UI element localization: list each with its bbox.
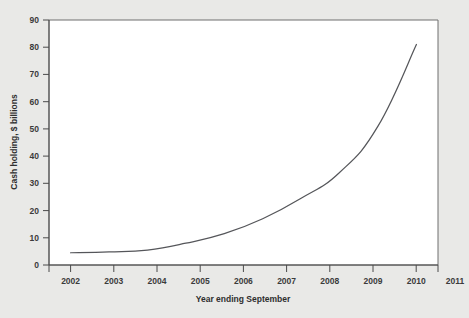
x-tick-label: 2007 — [277, 276, 296, 286]
y-tick-label: 50 — [30, 124, 40, 134]
x-tick-label: 2005 — [191, 276, 210, 286]
y-axis-title: Cash holding, $ billions — [9, 94, 19, 190]
plot-area-background — [49, 20, 438, 265]
chart-figure: 0 10 20 30 40 50 60 70 80 90 Cash holdin… — [0, 0, 469, 318]
y-tick-label: 80 — [30, 42, 40, 52]
y-tick-label: 70 — [30, 69, 40, 79]
y-tick-label: 60 — [30, 97, 40, 107]
x-tick-label: 2004 — [148, 276, 167, 286]
x-tick-label: 2008 — [320, 276, 339, 286]
x-tick-label: 2003 — [104, 276, 123, 286]
x-tick-label: 2010 — [407, 276, 426, 286]
y-tick-label: 30 — [30, 178, 40, 188]
x-tick-label: 2011 — [446, 276, 465, 286]
x-tick-label: 2002 — [61, 276, 80, 286]
x-axis-title: Year ending September — [196, 294, 291, 304]
x-tick-label: 2006 — [234, 276, 253, 286]
y-tick-label: 10 — [30, 233, 40, 243]
line-chart: 0 10 20 30 40 50 60 70 80 90 Cash holdin… — [0, 0, 469, 318]
y-tick-label: 20 — [30, 206, 40, 216]
y-tick-label: 90 — [30, 15, 40, 25]
y-tick-label: 40 — [30, 151, 40, 161]
x-tick-label: 2009 — [364, 276, 383, 286]
y-tick-label: 0 — [34, 260, 39, 270]
